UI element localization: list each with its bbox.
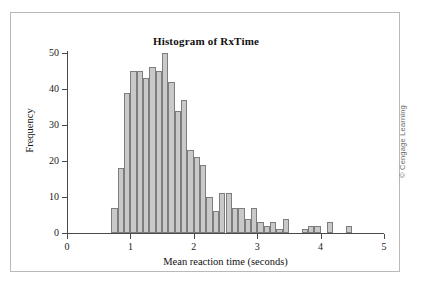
x-axis-title: Mean reaction time (seconds) [67, 256, 384, 267]
figure-frame: Histogram of RxTime 01020304050 012345 F… [10, 12, 400, 272]
page-root: Histogram of RxTime 01020304050 012345 F… [0, 0, 438, 287]
plot-area: 01020304050 012345 Frequency Mean reacti… [11, 13, 401, 273]
histogram-bar [314, 226, 320, 233]
histogram-bar [327, 222, 333, 233]
histogram-bars [11, 13, 401, 273]
y-axis-title: Frequency [24, 91, 35, 171]
copyright-notice: © Cengage Learning [398, 88, 407, 178]
histogram-bar [283, 219, 289, 233]
histogram-bar [346, 226, 352, 233]
